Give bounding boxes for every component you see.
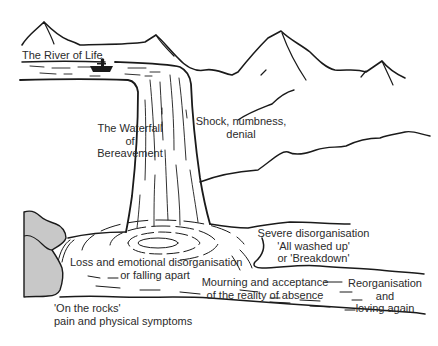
label-waterfall-of-bereavement: The Waterfall of Bereavement [70, 122, 190, 160]
label-line: or 'Breakdown' [256, 252, 371, 265]
label-line: Reorganisation [340, 277, 430, 290]
label-line: 'All washed up' [256, 240, 371, 253]
label-river-of-life: The River of Life [22, 49, 103, 62]
label-line: loving again [340, 302, 430, 315]
label-line: Severe disorganisation [256, 227, 371, 240]
label-line: The Waterfall [70, 122, 190, 135]
label-reorganisation-loving-again: Reorganisation and loving again [340, 277, 430, 315]
label-shock-numbness-denial: Shock, numbness, denial [186, 115, 296, 140]
label-line: 'On the rocks' [54, 302, 192, 315]
label-line: of the reality of absence [200, 289, 330, 302]
label-severe-disorganisation: Severe disorganisation 'All washed up' o… [256, 227, 371, 265]
label-line: pain and physical symptoms [54, 315, 192, 328]
label-mourning-and-acceptance: Mourning and acceptance of the reality o… [200, 276, 330, 301]
label-line: Bereavement [70, 147, 190, 160]
label-line: Shock, numbness, [186, 115, 296, 128]
label-line: denial [186, 128, 296, 141]
label-line: and [340, 290, 430, 303]
label-on-the-rocks: 'On the rocks' pain and physical symptom… [54, 302, 192, 327]
label-line: Loss and emotional disorganisation [70, 256, 240, 269]
label-line: of [70, 135, 190, 148]
label-line: Mourning and acceptance [200, 276, 330, 289]
